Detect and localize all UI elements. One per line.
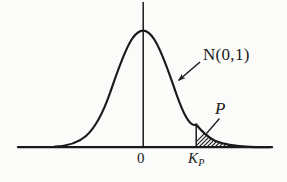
- tail-probability-label: P: [215, 100, 225, 117]
- critical-value-base: K: [188, 150, 198, 166]
- x-axis-origin-label: 0: [137, 151, 145, 166]
- distribution-label: N(0,1): [203, 46, 250, 63]
- tail-label-leader: [207, 119, 220, 134]
- critical-value-label: KP: [188, 151, 204, 168]
- critical-value-subscript: P: [198, 157, 204, 168]
- normal-distribution-figure: N(0,1) P 0 KP: [0, 0, 287, 182]
- distribution-label-arrow: [179, 62, 201, 81]
